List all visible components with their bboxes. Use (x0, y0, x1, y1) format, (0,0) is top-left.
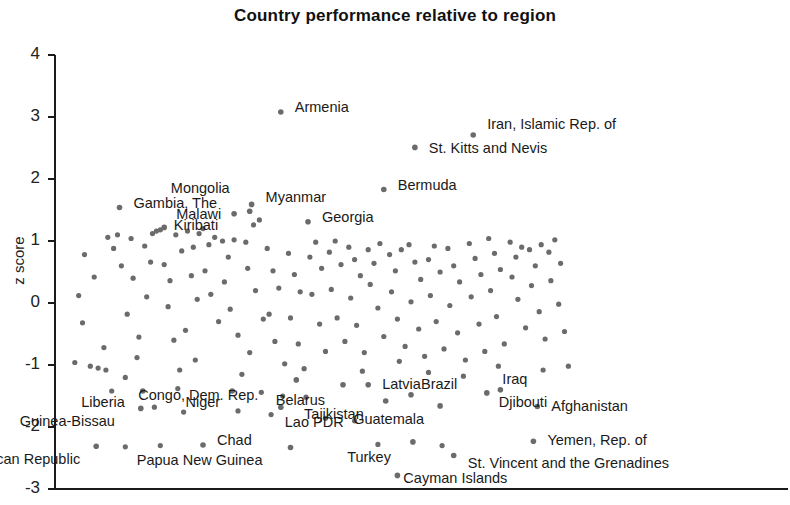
data-point (352, 257, 357, 262)
data-point (440, 443, 445, 448)
data-point (389, 289, 394, 294)
data-point-label: Congo, Dem. Rep. (138, 388, 258, 403)
data-point (397, 359, 402, 364)
data-point (461, 374, 466, 379)
data-point (123, 375, 128, 380)
labeled-data-point (340, 382, 346, 388)
data-point-label: Liberia (81, 395, 125, 410)
data-point (195, 297, 200, 302)
labeled-data-point (231, 211, 237, 217)
data-point (457, 279, 462, 284)
data-point (381, 334, 386, 339)
data-point (319, 266, 324, 271)
data-point (473, 256, 478, 261)
labeled-data-point (381, 187, 387, 193)
data-point (82, 252, 87, 257)
data-point (354, 323, 359, 328)
data-point (478, 272, 483, 277)
data-point (228, 307, 233, 312)
data-point (103, 367, 108, 372)
data-point (333, 238, 338, 243)
data-point (445, 246, 450, 251)
data-point (101, 345, 106, 350)
y-tick-label: -1 (6, 354, 40, 374)
data-point (72, 360, 77, 365)
data-point (88, 364, 93, 369)
data-point (494, 314, 499, 319)
y-tick-label: 1 (6, 230, 40, 250)
labeled-data-point (138, 406, 144, 412)
data-point (562, 329, 567, 334)
data-point (226, 255, 231, 260)
labeled-data-point (93, 443, 99, 449)
data-point (235, 408, 240, 413)
data-point (408, 299, 413, 304)
data-point (96, 366, 101, 371)
data-point (206, 242, 211, 247)
labeled-data-point (451, 453, 457, 459)
data-point (247, 350, 252, 355)
labeled-data-point (247, 208, 253, 214)
data-point (546, 250, 551, 255)
data-point (358, 273, 363, 278)
data-point-label: St. Vincent and the Grenadines (468, 456, 669, 471)
data-point (298, 289, 303, 294)
data-point (269, 412, 274, 417)
data-point (259, 390, 264, 395)
data-point (533, 263, 538, 268)
data-point (222, 279, 227, 284)
data-point (527, 247, 532, 252)
data-point (469, 294, 474, 299)
labeled-data-point (294, 377, 300, 383)
data-point (375, 442, 380, 447)
data-point (152, 405, 157, 410)
data-point-label: Central African Republic (0, 452, 80, 467)
data-point (272, 339, 277, 344)
data-point (216, 319, 221, 324)
data-point-label: St. Kitts and Nevis (429, 141, 547, 156)
data-point-label: Armenia (295, 100, 349, 115)
data-point (368, 282, 373, 287)
data-point (426, 257, 431, 262)
data-point (502, 341, 507, 346)
data-point (76, 293, 81, 298)
data-point (115, 232, 120, 237)
data-point (541, 367, 546, 372)
data-point-label: Guinea-Bissau (20, 414, 115, 429)
data-point (131, 276, 136, 281)
data-point (109, 388, 114, 393)
data-point (193, 357, 198, 362)
data-point (302, 366, 307, 371)
data-point (327, 250, 332, 255)
data-point (498, 267, 503, 272)
data-point (482, 349, 487, 354)
labeled-data-point (531, 439, 537, 445)
data-point (387, 252, 392, 257)
labeled-data-point (470, 132, 476, 138)
data-point (451, 263, 456, 268)
data-point (438, 269, 443, 274)
data-point (508, 240, 513, 245)
y-tick-label: 2 (6, 168, 40, 188)
data-point (543, 336, 548, 341)
labeled-data-point (412, 145, 418, 151)
data-point (296, 341, 301, 346)
data-point-label: Cayman Islands (403, 471, 507, 486)
data-point (282, 361, 287, 366)
y-tick-label: 3 (6, 106, 40, 126)
data-point (556, 302, 561, 307)
labeled-data-point (161, 225, 167, 231)
data-point (523, 325, 528, 330)
data-point (416, 326, 421, 331)
data-point (539, 242, 544, 247)
data-point (111, 246, 116, 251)
data-point (158, 443, 163, 448)
data-point (399, 247, 404, 252)
data-point-label: Latvia (382, 377, 421, 392)
data-point (220, 238, 225, 243)
data-point (360, 369, 365, 374)
data-point (208, 292, 213, 297)
data-point (476, 322, 481, 327)
data-point (418, 277, 423, 282)
data-point-label: Yemen, Rep. of (547, 433, 646, 448)
